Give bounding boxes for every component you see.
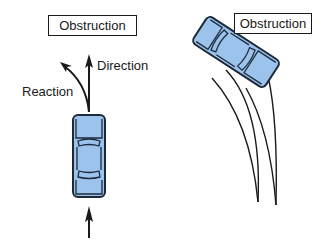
obstruction-box-right: Obstruction bbox=[234, 13, 312, 34]
diagram-svg bbox=[0, 0, 324, 242]
car-straight-icon bbox=[73, 115, 105, 197]
direction-label: Direction bbox=[97, 59, 148, 72]
diagram-canvas: Obstruction Direction Reaction Obstructi… bbox=[0, 0, 324, 242]
obstruction-label-right: Obstruction bbox=[240, 16, 306, 31]
reaction-label: Reaction bbox=[22, 85, 73, 98]
approach-arrow bbox=[85, 206, 93, 238]
obstruction-label-left: Obstruction bbox=[59, 18, 125, 33]
obstruction-box-left: Obstruction bbox=[48, 15, 137, 36]
direction-arrow bbox=[85, 54, 93, 112]
skid-marks bbox=[212, 70, 276, 205]
